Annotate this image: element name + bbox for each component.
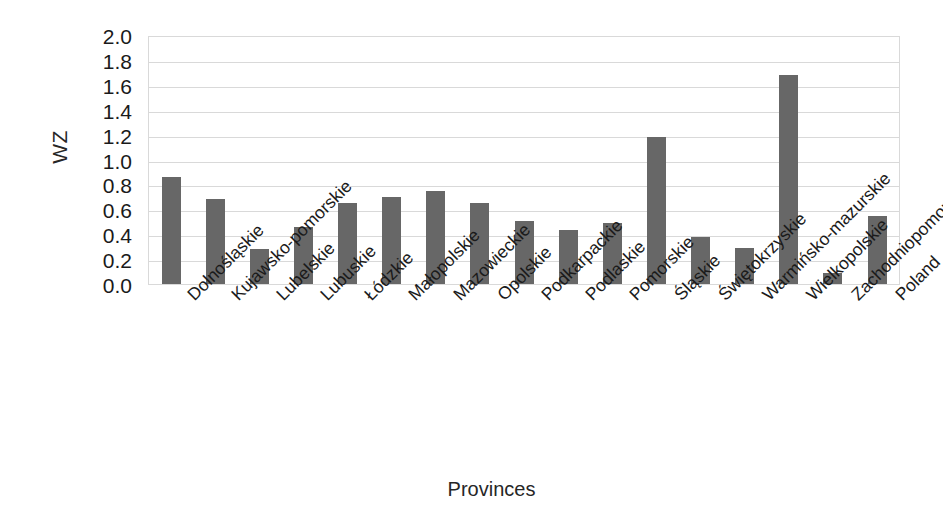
bar-slot [149,37,193,284]
y-axis-tick-label: 0.2 [103,250,132,271]
x-axis-tick-label: Małopolskie [405,291,418,304]
x-axis-tick-label: Opolskie [494,291,507,304]
x-axis-tick-label: Warmińsko-mazurskie [759,291,772,304]
y-axis-title: WZ [48,117,72,177]
x-axis-tick-label: Świętokrzyskie [715,291,728,304]
y-axis-tick-labels: 2.01.81.61.41.21.00.80.60.40.20.0 [78,36,140,285]
y-axis-tick-label: 2.0 [103,26,132,47]
x-axis-tick-label: Dolnośląskie [184,291,197,304]
x-axis-title: Provinces [0,478,943,501]
x-axis-tick-label: Kujawsko-pomorskie [228,291,241,304]
bars-layer [149,37,899,284]
x-axis-tick-label: Lubelskie [273,291,286,304]
x-axis-tick-labels: DolnośląskieKujawsko-pomorskieLubelskieL… [148,285,900,465]
x-axis-tick-label: Poland [892,291,905,304]
y-axis-tick-label: 0.6 [103,200,132,221]
y-axis-tick-label: 0.8 [103,175,132,196]
x-axis-title-text: Provinces [448,478,536,501]
y-axis-tick-label: 0.0 [103,275,132,296]
y-axis-tick-label: 0.4 [103,225,132,246]
x-axis-tick-label: Łódzkie [361,291,374,304]
x-axis-tick-label: Podkarpackie [538,291,551,304]
y-axis-tick-label: 1.6 [103,75,132,96]
bar[interactable] [162,177,181,284]
bar-chart: WZ 2.01.81.61.41.21.00.80.60.40.20.0 Dol… [0,0,943,527]
x-axis-tick-label: Podlaskie [582,291,595,304]
x-axis-tick-label: Pomorskie [626,291,639,304]
y-axis-tick-label: 1.0 [103,150,132,171]
x-axis-tick-label: Mazowieckie [450,291,463,304]
plot-area [148,36,900,285]
bar-slot [370,37,414,284]
y-axis-tick-label: 1.2 [103,125,132,146]
x-axis-tick-label: Śląskie [671,291,684,304]
x-axis-tick-label: Wielkopolskie [803,291,816,304]
x-axis-tick-label: Lubuskie [317,291,330,304]
y-axis-tick-label: 1.4 [103,100,132,121]
x-axis-tick-label: Zachodniopomorskie [848,291,861,304]
y-axis-tick-label: 1.8 [103,50,132,71]
